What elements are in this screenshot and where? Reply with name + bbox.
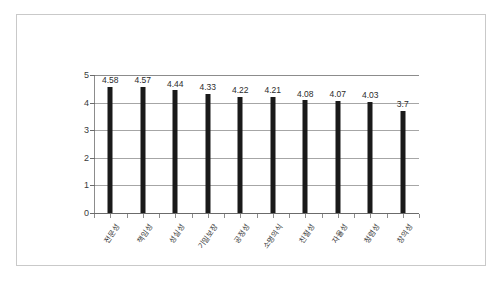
bar[interactable] bbox=[303, 100, 308, 213]
bar[interactable] bbox=[108, 87, 113, 213]
bar-value-label: 4.08 bbox=[297, 90, 314, 99]
category-label-text: 공정성 bbox=[233, 223, 251, 245]
x-axis-tick bbox=[257, 214, 258, 218]
category-label-text: 자율성 bbox=[331, 223, 349, 245]
bar-value-label: 4.22 bbox=[232, 86, 249, 95]
y-axis-tick-label: 1 bbox=[84, 181, 89, 190]
x-axis-tick bbox=[387, 214, 388, 218]
bar-value-label: 3.7 bbox=[397, 100, 409, 109]
bar-value-label: 4.21 bbox=[264, 86, 281, 95]
bar-slot: 4.33 bbox=[192, 75, 225, 213]
y-axis-tick-label: 2 bbox=[84, 153, 89, 162]
x-axis-tick bbox=[175, 214, 176, 218]
x-axis-tick bbox=[159, 214, 160, 218]
category-label-text: 책임성 bbox=[136, 223, 154, 245]
bar-value-label: 4.33 bbox=[199, 83, 216, 92]
category-label-text: 친절성 bbox=[298, 223, 316, 245]
y-axis-tick-label: 0 bbox=[84, 209, 89, 218]
bar-slot: 4.07 bbox=[322, 75, 355, 213]
y-axis-tick-label: 3 bbox=[84, 126, 89, 135]
bar[interactable] bbox=[205, 94, 210, 214]
category-label-text: 전문성 bbox=[103, 223, 121, 245]
bar-value-label: 4.03 bbox=[362, 91, 379, 100]
x-axis-category-label: 기밀보장 bbox=[197, 223, 219, 250]
x-axis-tick bbox=[338, 214, 339, 218]
bar-value-label: 4.57 bbox=[134, 76, 151, 85]
x-axis-tick bbox=[354, 214, 355, 218]
y-axis-tick-label: 4 bbox=[84, 98, 89, 107]
bar-slot: 3.7 bbox=[387, 75, 420, 213]
bar-slot: 4.03 bbox=[354, 75, 387, 213]
x-axis-tick bbox=[289, 214, 290, 218]
bar[interactable] bbox=[140, 87, 145, 213]
x-axis-category-label: 성실성 bbox=[168, 223, 186, 245]
x-axis-tick bbox=[192, 214, 193, 218]
category-label-text: 기밀보장 bbox=[197, 223, 219, 250]
bar[interactable] bbox=[238, 97, 243, 213]
bar[interactable] bbox=[368, 102, 373, 213]
x-axis-category-label: 전문성 bbox=[103, 223, 121, 245]
category-label-text: 창의성 bbox=[396, 223, 414, 245]
x-axis-category-label: 소명의식 bbox=[262, 223, 284, 250]
bar-slot: 4.44 bbox=[159, 75, 192, 213]
bar-slot: 4.21 bbox=[257, 75, 290, 213]
x-axis-category-label: 청렴성 bbox=[363, 223, 381, 245]
x-axis-tick bbox=[419, 214, 420, 218]
x-axis-category-label: 친절성 bbox=[298, 223, 316, 245]
bar[interactable] bbox=[335, 101, 340, 213]
bar-slot: 4.57 bbox=[127, 75, 160, 213]
x-axis-category-label: 공정성 bbox=[233, 223, 251, 245]
x-axis-tick bbox=[94, 214, 95, 218]
x-axis-category-label: 책임성 bbox=[136, 223, 154, 245]
category-label-text: 청렴성 bbox=[363, 223, 381, 245]
x-axis-category-label: 창의성 bbox=[396, 223, 414, 245]
plot-area: 012345 4.584.574.444.334.224.214.084.074… bbox=[94, 75, 419, 213]
x-axis-category-label: 자율성 bbox=[331, 223, 349, 245]
category-label-text: 성실성 bbox=[168, 223, 186, 245]
x-axis-tick bbox=[403, 214, 404, 218]
x-axis-tick bbox=[143, 214, 144, 218]
category-label-text: 소명의식 bbox=[262, 223, 284, 250]
x-axis-tick bbox=[208, 214, 209, 218]
page-canvas: 012345 4.584.574.444.334.224.214.084.074… bbox=[0, 0, 503, 293]
x-axis-tick bbox=[322, 214, 323, 218]
bar-chart: 012345 4.584.574.444.334.224.214.084.074… bbox=[75, 59, 425, 274]
bar[interactable] bbox=[270, 97, 275, 213]
bar[interactable] bbox=[400, 111, 405, 213]
bar-slot: 4.58 bbox=[94, 75, 127, 213]
bar-slot: 4.22 bbox=[224, 75, 257, 213]
x-axis-tick bbox=[224, 214, 225, 218]
x-axis-tick bbox=[110, 214, 111, 218]
x-axis-tick bbox=[305, 214, 306, 218]
bar-value-label: 4.58 bbox=[102, 76, 119, 85]
bar[interactable] bbox=[173, 90, 178, 213]
y-axis-tick-label: 5 bbox=[84, 71, 89, 80]
bar-value-label: 4.07 bbox=[329, 90, 346, 99]
x-axis-tick bbox=[127, 214, 128, 218]
x-axis-tick bbox=[370, 214, 371, 218]
chart-object-frame: 012345 4.584.574.444.334.224.214.084.074… bbox=[16, 14, 486, 266]
x-axis-tick bbox=[273, 214, 274, 218]
bar-slot: 4.08 bbox=[289, 75, 322, 213]
bar-value-label: 4.44 bbox=[167, 80, 184, 89]
x-axis-tick bbox=[240, 214, 241, 218]
